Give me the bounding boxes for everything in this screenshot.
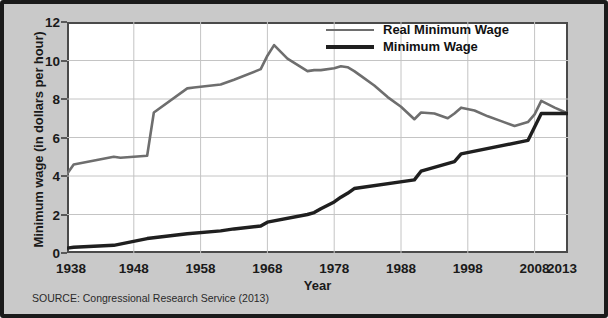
series-line <box>67 113 568 248</box>
x-tick-label: 1958 <box>186 261 216 276</box>
y-tick-mark <box>61 98 67 100</box>
y-tick-label: 2 <box>52 207 60 222</box>
x-tick-label: 1968 <box>252 261 282 276</box>
y-tick-mark <box>61 21 67 23</box>
x-tick-label: 1938 <box>56 261 86 276</box>
legend-swatch-icon <box>326 29 374 31</box>
y-tick-mark <box>61 214 67 216</box>
y-tick-label: 0 <box>52 246 60 261</box>
x-axis-label: Year <box>67 278 568 293</box>
x-tick-label: 1948 <box>119 261 149 276</box>
y-tick-label: 8 <box>52 92 60 107</box>
y-tick-mark <box>61 175 67 177</box>
x-tick-label: 1998 <box>453 261 483 276</box>
chart-legend: Real Minimum WageMinimum Wage <box>326 21 509 55</box>
legend-item: Real Minimum Wage <box>326 21 509 38</box>
x-tick-label: 2013 <box>547 261 577 276</box>
legend-label: Minimum Wage <box>383 39 478 54</box>
legend-item: Minimum Wage <box>326 38 509 55</box>
y-tick-mark <box>61 60 67 62</box>
x-tick-label: 2008 <box>520 261 550 276</box>
y-tick-label: 4 <box>52 169 60 184</box>
source-note: SOURCE: Congressional Research Service (… <box>32 292 269 304</box>
y-tick-mark <box>61 137 67 139</box>
chart-figure: Minimum wage (in dollars per hour) 02468… <box>0 0 608 318</box>
legend-label: Real Minimum Wage <box>383 22 509 37</box>
x-tick-label: 1978 <box>319 261 349 276</box>
plot-wrapper: 024681012 193819481958196819781988199820… <box>67 22 568 253</box>
y-tick-mark <box>61 252 67 254</box>
y-axis-label: Minimum wage (in dollars per hour) <box>31 20 46 260</box>
y-tick-label: 10 <box>45 53 60 68</box>
y-tick-label: 12 <box>45 15 60 30</box>
x-tick-label: 1988 <box>386 261 416 276</box>
series-line <box>67 45 568 174</box>
y-tick-label: 6 <box>52 130 60 145</box>
legend-swatch-icon <box>326 45 374 49</box>
chart-canvas <box>67 22 568 253</box>
